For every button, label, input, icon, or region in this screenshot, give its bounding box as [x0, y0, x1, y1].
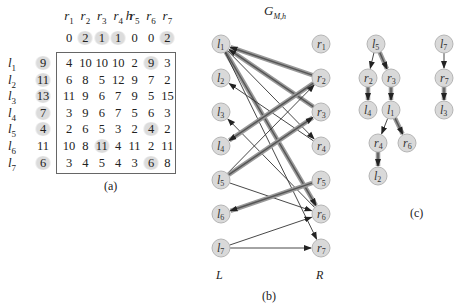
- right-set-label: R: [316, 268, 323, 283]
- tree-node-r2: r2: [359, 69, 377, 87]
- graph-edge: [230, 217, 312, 245]
- graph-node-l4: l4: [212, 137, 230, 155]
- tree-node-l1: l1: [382, 101, 400, 119]
- tree-node-r3: r3: [382, 69, 400, 87]
- tree-edge: [370, 53, 374, 69]
- graph-node-r5: r5: [312, 171, 330, 189]
- graph-node-l6: l6: [212, 205, 230, 223]
- graph-title-main: G: [264, 3, 273, 18]
- graph-edge: [226, 52, 316, 206]
- tree-edge: [395, 118, 403, 134]
- graph-node-l5: l5: [212, 171, 230, 189]
- graph-title: GM,h: [264, 3, 286, 21]
- graph-node-l2: l2: [212, 69, 230, 87]
- tree-node-l4: l4: [359, 101, 377, 119]
- graph-node-l3: l3: [212, 103, 230, 121]
- graph-node-r4: r4: [312, 137, 330, 155]
- graph-node-r7: r7: [312, 239, 330, 257]
- graph-title-sub: M,h: [273, 12, 286, 21]
- graph-node-r3: r3: [312, 103, 330, 121]
- tree-node-l3: l3: [435, 101, 453, 119]
- tree-node-r4: r4: [369, 134, 387, 152]
- graph-node-r1: r1: [312, 35, 330, 53]
- caption-b: (b): [262, 289, 276, 304]
- tree-edge: [382, 118, 388, 133]
- graph-canvas: l1l2l3l4l5l6l7r1r2r3r4r5r6r7l5r2r3l4l1r4…: [0, 0, 475, 307]
- tree-node-r6: r6: [398, 134, 416, 152]
- graph-node-r2: r2: [312, 69, 330, 87]
- left-set-label: L: [216, 268, 223, 283]
- tree-node-r7: r7: [435, 69, 453, 87]
- tree-node-l5: l5: [367, 35, 385, 53]
- tree-node-l2: l2: [369, 167, 387, 185]
- graph-node-l1: l1: [212, 35, 230, 53]
- graph-edge: [227, 85, 314, 173]
- graph-node-r6: r6: [312, 205, 330, 223]
- tree-node-l7: l7: [435, 35, 453, 53]
- graph-node-l7: l7: [212, 239, 230, 257]
- tree-edge: [380, 52, 387, 69]
- caption-c: (c): [410, 206, 423, 221]
